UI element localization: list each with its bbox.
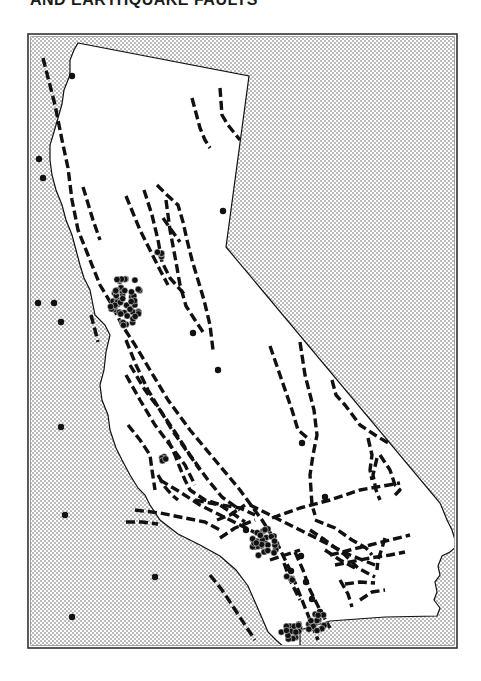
- epicenter-dot: [271, 550, 277, 556]
- epicenter-dot: [283, 627, 289, 633]
- epicenter-dot: [122, 287, 128, 293]
- epicenter-dot: [288, 568, 294, 574]
- epicenter-dot: [69, 614, 75, 620]
- epicenter-dot: [118, 311, 124, 317]
- epicenter-dot: [58, 424, 64, 430]
- epicenter-dot: [299, 440, 305, 446]
- epicenter-dot: [51, 300, 57, 306]
- epicenter-dot: [132, 313, 138, 319]
- epicenter-dot: [289, 577, 295, 583]
- epicenter-dot: [113, 288, 119, 294]
- epicenter-dot: [135, 286, 141, 292]
- epicenter-dot: [271, 538, 277, 544]
- epicenter-dot: [132, 277, 138, 283]
- epicenter-dot: [124, 313, 130, 319]
- epicenter-dot: [128, 298, 134, 304]
- california-fault-map: [0, 0, 481, 681]
- epicenter-dot: [152, 574, 158, 580]
- epicenter-dot: [295, 622, 301, 628]
- epicenter-dot: [163, 456, 169, 462]
- epicenter-dot: [257, 532, 263, 538]
- epicenter-dot: [308, 618, 314, 624]
- epicenter-dot: [190, 330, 196, 336]
- epicenter-dot: [215, 367, 221, 373]
- epicenter-dot: [298, 553, 304, 559]
- epicenter-dot: [315, 612, 321, 618]
- epicenter-dot: [243, 527, 249, 533]
- epicenter-dot: [114, 276, 120, 282]
- epicenter-dot: [35, 300, 41, 306]
- epicenter-dot: [58, 319, 64, 325]
- epicenter-dot: [120, 295, 126, 301]
- epicenter-dot: [128, 289, 134, 295]
- epicenter-dot: [306, 626, 312, 632]
- epicenter-dot: [36, 156, 42, 162]
- epicenter-dot: [253, 540, 259, 546]
- epicenter-dot: [303, 579, 309, 585]
- epicenter-dot: [309, 596, 315, 602]
- epicenter-dot: [284, 573, 290, 579]
- epicenter-dot: [40, 175, 46, 181]
- epicenter-dot: [293, 629, 299, 635]
- epicenter-dot: [322, 494, 328, 500]
- epicenter-dot: [62, 512, 68, 518]
- epicenter-dot: [220, 208, 226, 214]
- epicenter-dot: [107, 303, 113, 309]
- fault-line: [126, 522, 158, 524]
- epicenter-dot: [262, 527, 268, 533]
- epicenter-dot: [120, 322, 126, 328]
- epicenter-dot: [69, 73, 75, 79]
- epicenter-dot: [255, 552, 261, 558]
- epicenter-dot: [154, 249, 160, 255]
- epicenter-dot: [314, 627, 320, 633]
- epicenter-dot: [265, 547, 271, 553]
